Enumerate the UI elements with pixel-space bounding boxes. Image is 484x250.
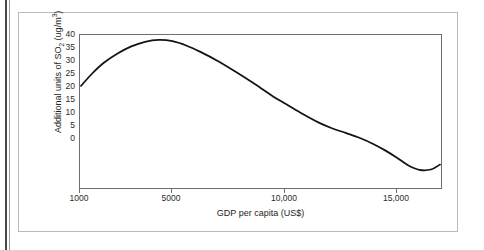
y-axis-title-superscript: 3	[51, 14, 58, 18]
y-axis-title-tail: )	[53, 11, 63, 14]
y-tick-label-40: 40	[53, 30, 75, 39]
y-tick-label-20: 20	[53, 82, 75, 91]
plot-area	[79, 34, 442, 189]
x-tick-label-5000: 5000	[149, 193, 193, 203]
line-chart-svg	[80, 35, 441, 188]
y-tick-label-25: 25	[53, 69, 75, 78]
so2-gdp-curve	[81, 40, 440, 170]
x-tick-label-15000: 15,000	[374, 193, 418, 203]
page-binding-line	[5, 0, 7, 250]
x-tick-label-1000: 1000	[57, 193, 101, 203]
y-tick-label-10: 10	[53, 108, 75, 117]
figure-page: Additional units of SO2 (ug/m3) 40 35 30…	[0, 0, 484, 250]
figure-frame: Additional units of SO2 (ug/m3) 40 35 30…	[18, 12, 458, 232]
y-axis-tick-labels: 40 35 30 25 20 15 10 5 0	[49, 34, 75, 189]
y-tick-label-35: 35	[53, 43, 75, 52]
y-tick-label-30: 30	[53, 56, 75, 65]
page-binding-line-secondary	[9, 0, 10, 250]
y-tick-label-5: 5	[53, 121, 75, 130]
y-tick-label-15: 15	[53, 95, 75, 104]
y-tick-label-0: 0	[53, 134, 75, 143]
x-axis-title: GDP per capita (US$)	[79, 208, 442, 218]
x-tick-label-10000: 10,000	[262, 193, 306, 203]
